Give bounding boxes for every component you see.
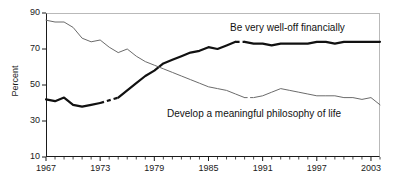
series-line-0 xyxy=(118,42,235,98)
x-tick-label: 1991 xyxy=(246,164,280,173)
series-label-be-very-well-off-financially: Be very well-off financially xyxy=(228,22,347,33)
series-line-1 xyxy=(254,89,380,105)
series-gap-dashed-0 xyxy=(100,98,118,103)
series-line-0 xyxy=(245,42,380,46)
x-tick-label: 2003 xyxy=(354,164,388,173)
y-tick-label: 30 xyxy=(18,116,40,125)
y-tick-label: 70 xyxy=(18,44,40,53)
x-tick-label: 1967 xyxy=(29,164,63,173)
x-tick-label: 1973 xyxy=(83,164,117,173)
y-tick-label: 10 xyxy=(18,152,40,161)
y-tick-label: 50 xyxy=(18,80,40,89)
series-label-develop-a-meaningful-philosophy-of-life: Develop a meaningful philosophy of life xyxy=(165,108,343,119)
chart-container: Percent Be very well-off financially Dev… xyxy=(0,0,393,189)
y-tick-label: 90 xyxy=(18,8,40,17)
x-tick-label: 1985 xyxy=(191,164,225,173)
series-line-0 xyxy=(46,98,100,107)
series-line-1 xyxy=(46,20,245,97)
x-tick-label: 1979 xyxy=(137,164,171,173)
x-tick-label: 1997 xyxy=(300,164,334,173)
